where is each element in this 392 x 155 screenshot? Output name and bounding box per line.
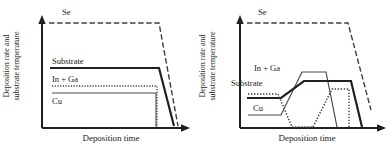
chart-panel-left: Deposition rate and substrate temperatur… <box>0 0 196 155</box>
chart-panel-right: Deposition rate and substrate temperatur… <box>196 0 392 155</box>
plot-area-right <box>196 0 392 155</box>
x-axis-title: Deposition time <box>232 133 382 143</box>
plot-area-left <box>0 0 196 155</box>
curve-label-substrate: Substrate <box>231 78 263 88</box>
figure-two-panel-deposition-schematic: Deposition rate and substrate temperatur… <box>0 0 392 155</box>
curve-label-in-ga: In + Ga <box>52 74 78 84</box>
curve-label-se: Se <box>62 7 71 17</box>
curve-in-ga <box>52 86 157 127</box>
curve-in-ga <box>248 89 349 127</box>
x-axis-title: Deposition time <box>36 133 186 143</box>
curve-label-substrate: Substrate <box>52 56 84 66</box>
curve-substrate <box>247 81 362 127</box>
curve-label-in-ga: In + Ga <box>254 63 280 73</box>
curve-label-se: Se <box>258 7 267 17</box>
axis-lines <box>236 15 386 132</box>
curve-cu <box>52 93 156 127</box>
curve-label-cu: Cu <box>52 96 62 106</box>
curve-label-cu: Cu <box>253 103 263 113</box>
